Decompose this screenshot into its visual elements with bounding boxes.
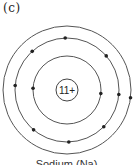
caption: Sodium (Na) [0, 158, 133, 165]
electron [30, 50, 34, 54]
electron [99, 92, 103, 96]
electron [129, 96, 133, 100]
electron [117, 93, 121, 97]
electron [102, 125, 106, 129]
nucleus-label: 11+ [59, 85, 75, 96]
electron [32, 128, 36, 132]
electron [13, 84, 17, 88]
electron [104, 54, 108, 58]
electron [63, 36, 67, 40]
electron [31, 86, 35, 90]
atom-diagram: 11+ [0, 0, 133, 165]
electron [67, 140, 71, 144]
